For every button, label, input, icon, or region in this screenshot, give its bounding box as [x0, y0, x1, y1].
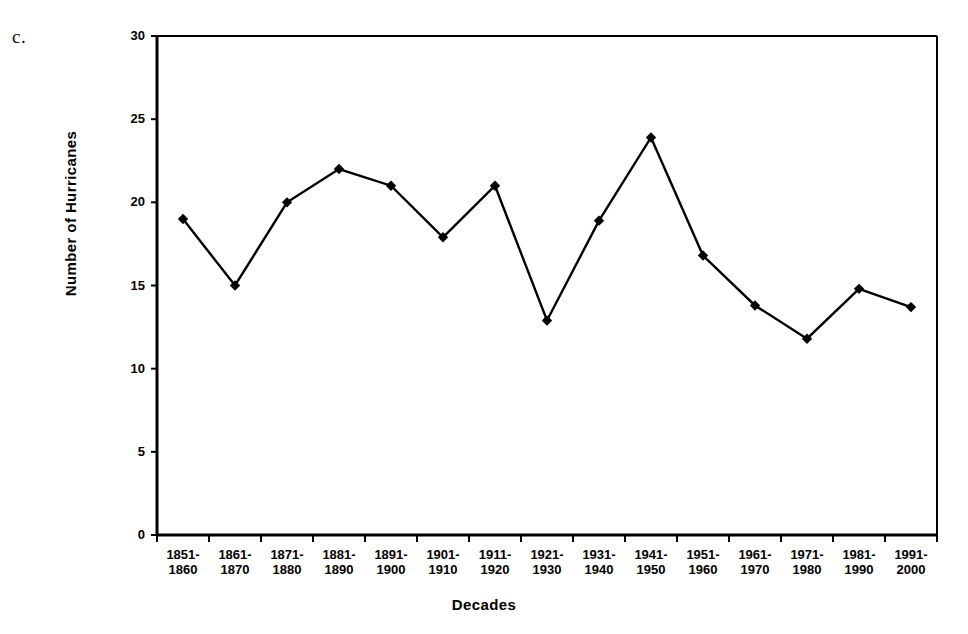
x-tick-label-line: 1991-	[879, 547, 943, 562]
data-point-marker	[542, 315, 552, 325]
plot-area	[0, 0, 968, 634]
data-series-line	[183, 137, 911, 338]
hurricane-decades-line-chart: c. Number of Hurricanes Decades 05101520…	[0, 0, 968, 634]
y-tick-label: 0	[105, 528, 145, 541]
y-tick-label: 30	[105, 29, 145, 42]
axis-ticks	[151, 36, 937, 542]
axes	[157, 36, 937, 535]
data-point-markers	[178, 132, 916, 344]
data-point-marker	[906, 302, 916, 312]
y-tick-label: 10	[105, 362, 145, 375]
y-tick-label: 15	[105, 279, 145, 292]
series-line	[183, 137, 911, 338]
y-tick-label: 25	[105, 112, 145, 125]
x-tick-label-line: 2000	[879, 562, 943, 577]
x-tick-label: 1991-2000	[879, 547, 943, 578]
y-tick-label: 5	[105, 445, 145, 458]
y-tick-label: 20	[105, 195, 145, 208]
